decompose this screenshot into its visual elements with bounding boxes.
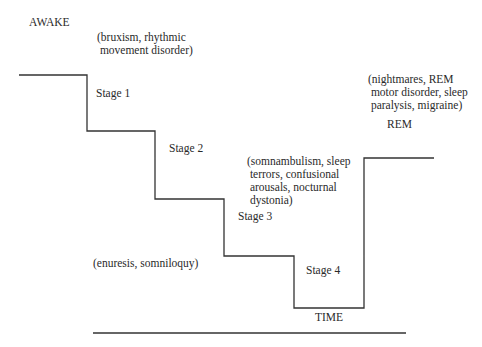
rem-label: REM bbox=[387, 118, 412, 131]
stage4-label: Stage 4 bbox=[306, 264, 340, 277]
awake-disorders: (bruxism, rhythmic movement disorder) bbox=[97, 31, 193, 57]
awake-label: AWAKE bbox=[29, 16, 70, 29]
time-axis-label: TIME bbox=[315, 311, 343, 324]
stage3-label: Stage 3 bbox=[238, 210, 272, 223]
stage3-disorders: (somnambulism, sleep terrors, confusiona… bbox=[247, 155, 351, 207]
other-disorders: (enuresis, somniloquy) bbox=[93, 257, 198, 270]
stage1-label: Stage 1 bbox=[96, 87, 130, 100]
stage2-label: Stage 2 bbox=[169, 142, 203, 155]
rem-disorders: (nightmares, REM motor disorder, sleep p… bbox=[368, 73, 468, 112]
hypnogram-lines bbox=[0, 0, 482, 347]
